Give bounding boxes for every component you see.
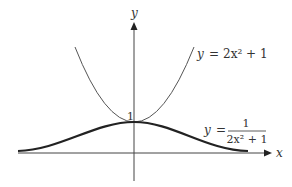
function-graph: x y 1 y = 2x² + 1 y = 1 2x² + 1 <box>0 0 292 187</box>
x-axis-arrow-icon <box>264 150 272 157</box>
bell-lhs: y <box>203 123 211 137</box>
parabola-equation-label: y = 2x² + 1 <box>196 47 268 61</box>
bell-eq: = <box>216 123 226 137</box>
bell-curve <box>18 122 248 151</box>
intercept-label: 1 <box>127 110 134 123</box>
x-axis-label: x <box>276 146 283 160</box>
y-axis-label: y <box>130 6 138 20</box>
parabola-eq: = <box>209 47 219 61</box>
bell-denominator: 2x² + 1 <box>227 133 268 146</box>
bell-numerator: 1 <box>243 117 250 130</box>
y-axis-arrow-icon <box>131 22 138 30</box>
parabola-lhs: y <box>196 47 204 61</box>
parabola-rhs: 2x² + 1 <box>223 47 268 61</box>
bell-equation-label: y = 1 2x² + 1 <box>203 117 267 146</box>
